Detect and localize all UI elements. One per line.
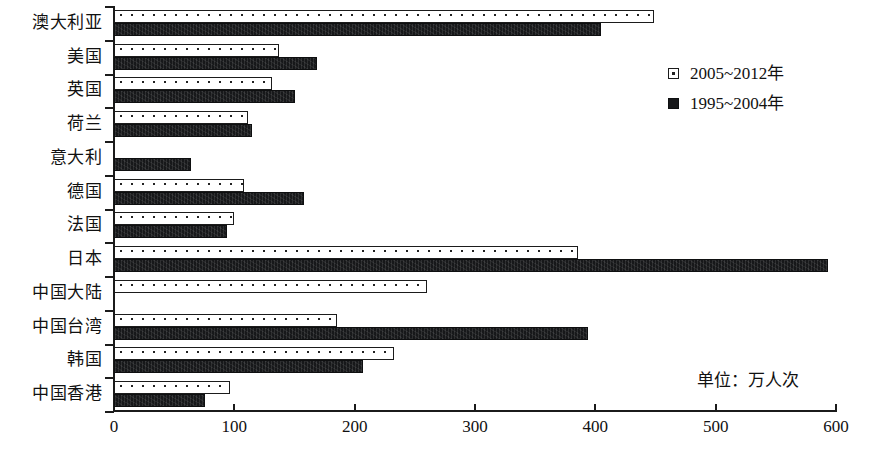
x-axis-tick-label: 400	[583, 418, 609, 435]
bar-light	[114, 77, 272, 90]
category-label: 中国香港	[0, 385, 102, 402]
category-label: 荷兰	[0, 115, 102, 132]
bar-light	[114, 44, 279, 57]
x-axis-tick	[835, 404, 837, 412]
x-axis-tick-label: 600	[823, 418, 849, 435]
legend: 2005~2012年 1995~2004年	[668, 58, 868, 118]
x-axis-tick-label: 0	[110, 418, 119, 435]
bar-dark	[114, 23, 601, 36]
category-label: 韩国	[0, 351, 102, 368]
bar-dark	[114, 90, 295, 103]
y-axis-tick	[105, 40, 114, 42]
x-axis-tick	[354, 404, 356, 412]
y-axis-tick	[105, 209, 114, 211]
bar-chart: 澳大利亚美国英国荷兰意大利德国法国日本中国大陆中国台湾韩国中国香港 010020…	[0, 0, 873, 474]
x-axis-tick	[715, 404, 717, 412]
bar-light	[114, 212, 234, 225]
y-axis-tick	[105, 310, 114, 312]
category-label: 意大利	[0, 149, 102, 166]
x-axis-tick-label: 100	[222, 418, 248, 435]
y-axis-tick	[105, 107, 114, 109]
bar-dark	[114, 360, 363, 373]
bar-dark	[114, 57, 317, 70]
bar-light	[114, 280, 427, 293]
bar-dark	[114, 158, 191, 171]
y-axis-tick	[105, 141, 114, 143]
legend-label-1: 1995~2004年	[690, 95, 784, 112]
bar-light	[114, 347, 394, 360]
legend-swatch-solid-dark-icon	[668, 98, 679, 109]
category-label: 德国	[0, 183, 102, 200]
category-label: 美国	[0, 48, 102, 65]
y-axis-tick	[105, 276, 114, 278]
category-label: 中国台湾	[0, 318, 102, 335]
y-axis-tick	[105, 175, 114, 177]
x-axis-tick	[233, 404, 235, 412]
category-label: 法国	[0, 216, 102, 233]
category-label: 中国大陆	[0, 284, 102, 301]
legend-item-0[interactable]: 2005~2012年	[668, 58, 868, 88]
unit-note: 单位：万人次	[697, 372, 799, 389]
bar-light	[114, 10, 654, 23]
bar-light	[114, 381, 230, 394]
x-axis-tick-label: 500	[703, 418, 729, 435]
bar-light	[114, 111, 248, 124]
y-axis-tick	[105, 377, 114, 379]
legend-item-1[interactable]: 1995~2004年	[668, 88, 868, 118]
category-label: 澳大利亚	[0, 14, 102, 31]
bar-light	[114, 246, 578, 259]
category-label: 日本	[0, 250, 102, 267]
legend-label-0: 2005~2012年	[690, 65, 784, 82]
y-axis-tick	[105, 6, 114, 8]
bar-dark	[114, 192, 304, 205]
category-label: 英国	[0, 81, 102, 98]
bar-dark	[114, 259, 828, 272]
category-axis-labels: 澳大利亚美国英国荷兰意大利德国法国日本中国大陆中国台湾韩国中国香港	[0, 6, 108, 411]
bar-light	[114, 179, 244, 192]
x-axis-tick	[474, 404, 476, 412]
y-axis-tick	[105, 344, 114, 346]
bar-dark	[114, 394, 205, 407]
y-axis-tick	[105, 74, 114, 76]
x-axis-tick	[594, 404, 596, 412]
x-axis-tick-label: 300	[462, 418, 488, 435]
bar-dark	[114, 225, 227, 238]
bar-dark	[114, 327, 588, 340]
legend-swatch-light-dotted-icon	[668, 68, 679, 79]
bar-light	[114, 314, 337, 327]
y-axis-tick	[105, 242, 114, 244]
bar-dark	[114, 124, 252, 137]
x-axis-tick-label: 200	[342, 418, 368, 435]
